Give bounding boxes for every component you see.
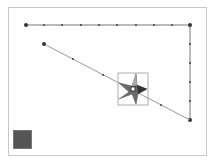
star-selection[interactable] <box>118 73 148 105</box>
center-handle <box>131 87 135 91</box>
path-diagonal[interactable] <box>44 44 190 120</box>
color-swatch[interactable] <box>13 130 32 149</box>
path-corner[interactable] <box>26 25 190 120</box>
path-nodes[interactable] <box>24 23 192 122</box>
vector-drawing[interactable] <box>0 0 221 164</box>
